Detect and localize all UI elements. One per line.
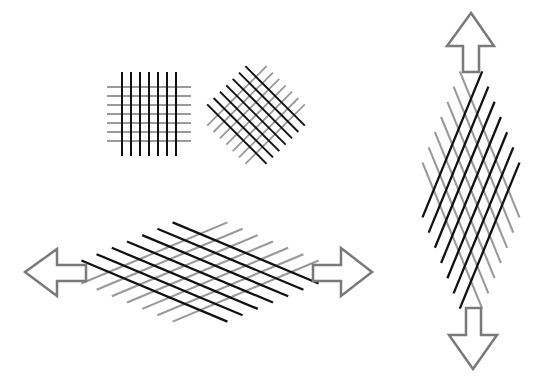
arrow-down-icon bbox=[449, 308, 497, 369]
arrow-up-icon bbox=[447, 13, 494, 72]
arrow-right-icon bbox=[313, 248, 372, 296]
vertical-stretch-panel bbox=[423, 71, 520, 308]
horizontal-stretch-panel bbox=[81, 222, 318, 321]
square-grid-panel bbox=[107, 72, 191, 156]
deformation-diagram bbox=[0, 0, 553, 387]
arrows bbox=[25, 13, 497, 369]
arrow-left-icon bbox=[25, 249, 86, 296]
rotated-grid-panel bbox=[207, 66, 305, 164]
